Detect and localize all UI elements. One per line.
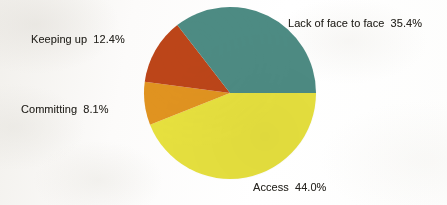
pie-slices-group (144, 7, 316, 179)
slice-label-committing: Committing 8.1% (21, 103, 109, 116)
slice-label-access: Access 44.0% (253, 181, 326, 194)
pie-chart-figure: Lack of face to face 35.4% Keeping up 12… (0, 0, 447, 205)
pie-chart-graphic (143, 6, 317, 180)
slice-label-lack-of-face-to-face: Lack of face to face 35.4% (288, 17, 422, 30)
pie-svg (143, 6, 317, 180)
slice-label-keeping-up: Keeping up 12.4% (31, 33, 125, 46)
